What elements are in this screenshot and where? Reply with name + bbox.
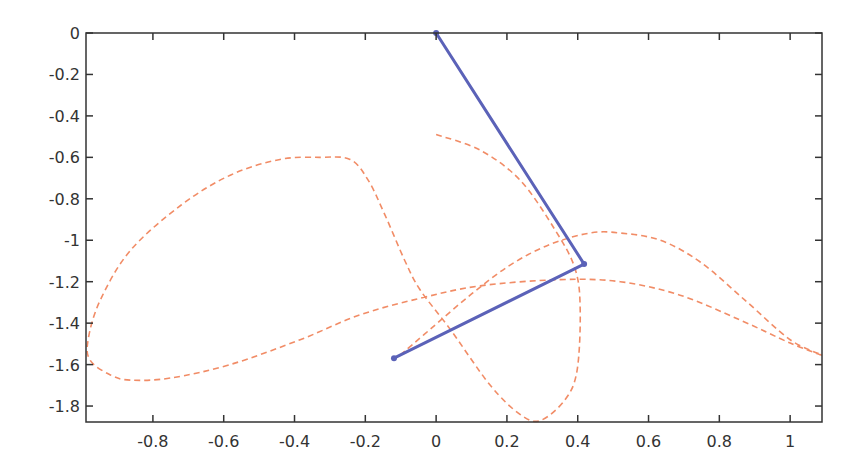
y-tick-label: -1.4 xyxy=(49,314,80,333)
axes: -0.8-0.6-0.4-0.200.20.40.60.810-0.2-0.4-… xyxy=(49,24,822,451)
x-tick-label: 0.4 xyxy=(565,432,590,451)
y-tick-label: -1.6 xyxy=(49,356,80,375)
y-tick-label: -1.8 xyxy=(49,397,80,416)
x-tick-label: 1 xyxy=(785,432,795,451)
x-tick-label: 0.8 xyxy=(707,432,732,451)
x-tick-label: -0.2 xyxy=(350,432,381,451)
pendulum-arm-line xyxy=(394,33,584,358)
y-tick-label: -1 xyxy=(64,231,80,250)
trace-line xyxy=(87,135,822,422)
y-tick-label: -0.6 xyxy=(49,148,80,167)
x-tick-label: 0.2 xyxy=(494,432,519,451)
x-tick-label: 0 xyxy=(431,432,441,451)
plot-frame xyxy=(86,33,822,422)
y-tick-label: -0.2 xyxy=(49,65,80,84)
series-layer xyxy=(87,30,822,421)
y-tick-label: -0.8 xyxy=(49,190,80,209)
elbow-joint-marker xyxy=(581,261,587,267)
y-tick-label: -0.4 xyxy=(49,107,80,126)
x-tick-label: -0.6 xyxy=(208,432,239,451)
y-tick-label: -1.2 xyxy=(49,273,80,292)
x-tick-label: -0.4 xyxy=(279,432,310,451)
x-tick-label: -0.8 xyxy=(137,432,168,451)
chart: -0.8-0.6-0.4-0.200.20.40.60.810-0.2-0.4-… xyxy=(0,0,859,473)
x-tick-label: 0.6 xyxy=(636,432,661,451)
end-effector-marker xyxy=(391,355,397,361)
y-tick-label: 0 xyxy=(70,24,80,43)
